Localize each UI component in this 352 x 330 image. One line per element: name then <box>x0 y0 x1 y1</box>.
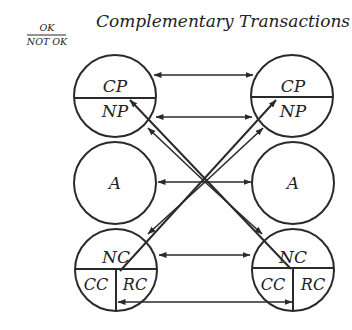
left-ego-states: CP NP A NC CC RC <box>74 55 157 311</box>
left-np-label: NP <box>101 101 129 121</box>
right-nc-label: NC <box>278 247 307 267</box>
diagram-title: Complementary Transactions <box>96 11 350 31</box>
left-parent-circle <box>74 55 156 137</box>
right-ego-states: CP NP A NC CC RC <box>251 55 334 311</box>
center-to-left-np-edge-arrow <box>148 128 205 182</box>
right-cc-label: CC <box>261 275 285 294</box>
right-cp-label: CP <box>281 76 306 96</box>
left-a-label: A <box>107 173 121 193</box>
right-rc-label: RC <box>300 275 325 294</box>
right-child-to-left-np-arrow <box>130 100 291 269</box>
center-to-right-np-edge-arrow <box>205 128 263 182</box>
legend-not-ok: NOT OK <box>26 36 68 47</box>
right-a-label: A <box>285 173 299 193</box>
right-np-label: NP <box>279 101 307 121</box>
ok-notok-legend: OK NOT OK <box>26 22 68 47</box>
left-cc-label: CC <box>84 275 108 294</box>
center-to-left-nc-edge-arrow <box>148 182 205 234</box>
left-rc-label: RC <box>122 275 147 294</box>
transaction-diagram: OK NOT OK Complementary Transactions CP … <box>0 0 352 330</box>
legend-ok: OK <box>40 22 56 33</box>
left-cp-label: CP <box>103 76 128 96</box>
crossing-transactions <box>120 100 291 271</box>
